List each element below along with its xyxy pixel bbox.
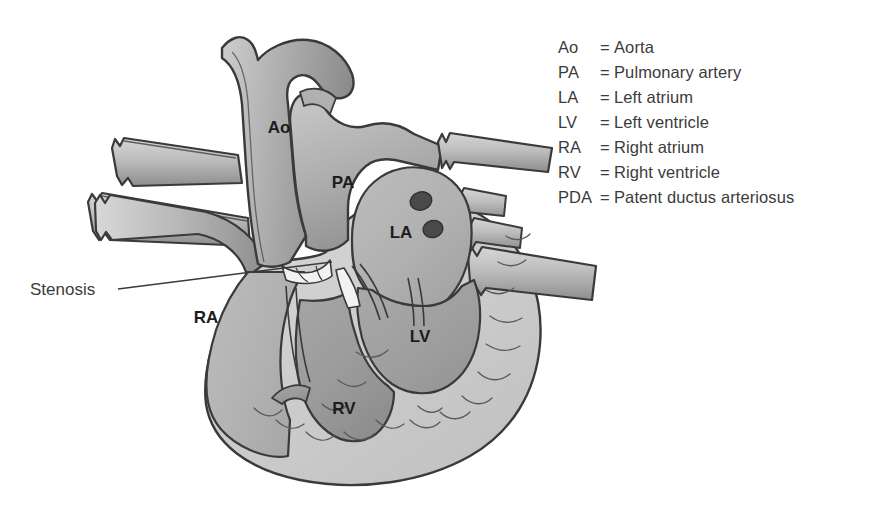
legend-abbr: PA (558, 63, 600, 82)
legend-term: Left atrium (614, 88, 888, 107)
stenosis-callout-label: Stenosis (30, 280, 95, 300)
label-la: LA (390, 223, 413, 242)
legend-abbr: RV (558, 163, 600, 182)
legend-abbr: LV (558, 113, 600, 132)
legend-equals: = (600, 88, 614, 107)
legend-equals: = (600, 163, 614, 182)
legend-term: Aorta (614, 38, 888, 57)
legend-abbr: PDA (558, 188, 600, 207)
legend-abbr: LA (558, 88, 600, 107)
legend-term: Right atrium (614, 138, 888, 157)
legend-term: Left ventricle (614, 113, 888, 132)
abbreviation-legend: Ao = Aorta PA = Pulmonary artery LA = Le… (558, 38, 888, 213)
legend-row: RV = Right ventricle (558, 163, 888, 188)
legend-row: LA = Left atrium (558, 88, 888, 113)
legend-row: PDA = Patent ductus arteriosus (558, 188, 888, 213)
label-rv: RV (332, 399, 356, 418)
legend-term: Right ventricle (614, 163, 888, 182)
legend-term: Patent ductus arteriosus (614, 188, 888, 207)
legend-equals: = (600, 113, 614, 132)
legend-row: RA = Right atrium (558, 138, 888, 163)
brachiocephalic-vessel-stub (112, 138, 242, 186)
label-ra: RA (194, 308, 219, 327)
legend-equals: = (600, 138, 614, 157)
legend-row: Ao = Aorta (558, 38, 888, 63)
legend-equals: = (600, 38, 614, 57)
label-ao: Ao (268, 118, 291, 137)
legend-term: Pulmonary artery (614, 63, 888, 82)
legend-row: PA = Pulmonary artery (558, 63, 888, 88)
legend-row: LV = Left ventricle (558, 113, 888, 138)
label-pa: PA (332, 173, 354, 192)
label-lv: LV (410, 327, 431, 346)
legend-equals: = (600, 63, 614, 82)
legend-equals: = (600, 188, 614, 207)
legend-abbr: Ao (558, 38, 600, 57)
legend-abbr: RA (558, 138, 600, 157)
